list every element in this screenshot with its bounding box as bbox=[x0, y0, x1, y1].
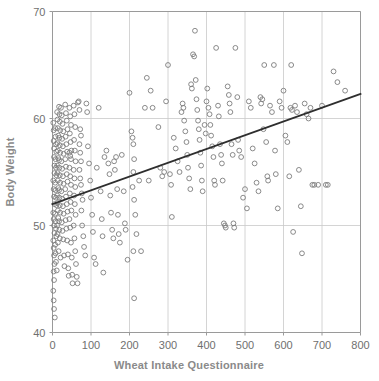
data-point bbox=[193, 28, 198, 33]
data-point bbox=[92, 255, 97, 260]
data-point bbox=[148, 88, 153, 93]
data-point bbox=[156, 125, 161, 130]
data-point bbox=[93, 262, 98, 267]
data-point bbox=[116, 232, 121, 237]
data-point bbox=[63, 187, 68, 192]
data-point bbox=[51, 288, 56, 293]
data-point bbox=[298, 204, 303, 209]
data-point bbox=[84, 101, 89, 106]
data-point bbox=[81, 234, 86, 239]
data-point bbox=[107, 172, 112, 177]
data-point bbox=[188, 187, 193, 192]
data-point bbox=[51, 269, 56, 274]
data-point bbox=[71, 167, 76, 172]
plot-frame bbox=[50, 12, 361, 336]
data-point bbox=[273, 148, 278, 153]
x-tick-label: 0 bbox=[49, 339, 55, 351]
data-point bbox=[196, 127, 201, 132]
data-point bbox=[71, 103, 76, 108]
data-point bbox=[132, 197, 137, 202]
data-point bbox=[133, 212, 138, 217]
data-point bbox=[131, 249, 136, 254]
data-point bbox=[271, 63, 276, 68]
data-point bbox=[78, 127, 83, 132]
data-points bbox=[51, 28, 348, 320]
data-point bbox=[79, 159, 84, 164]
x-axis-title: Wheat Intake Questionnaire bbox=[114, 359, 264, 371]
y-axis-tick-labels: 40506070 bbox=[33, 6, 45, 339]
data-point bbox=[177, 170, 182, 175]
data-point bbox=[51, 120, 56, 125]
data-point bbox=[67, 131, 72, 136]
data-point bbox=[207, 112, 212, 117]
data-point bbox=[88, 178, 93, 183]
data-point bbox=[134, 232, 139, 237]
data-point bbox=[73, 159, 78, 164]
data-point bbox=[187, 176, 192, 181]
data-point bbox=[144, 75, 149, 80]
data-point bbox=[56, 216, 61, 221]
gridlines bbox=[53, 12, 361, 333]
data-point bbox=[131, 142, 136, 147]
data-point bbox=[122, 221, 127, 226]
data-point bbox=[85, 110, 90, 115]
data-point bbox=[69, 157, 74, 162]
data-point bbox=[116, 212, 121, 217]
x-tick-label: 300 bbox=[159, 339, 177, 351]
data-point bbox=[108, 193, 113, 198]
data-point bbox=[70, 281, 75, 286]
data-point bbox=[228, 110, 233, 115]
data-point bbox=[143, 105, 148, 110]
data-point bbox=[69, 255, 74, 260]
data-point bbox=[100, 234, 105, 239]
data-point bbox=[254, 180, 259, 185]
data-point bbox=[96, 105, 101, 110]
data-point bbox=[183, 129, 188, 134]
data-point bbox=[104, 148, 109, 153]
y-tick-label: 50 bbox=[33, 220, 45, 232]
data-point bbox=[220, 161, 225, 166]
data-point bbox=[225, 84, 230, 89]
data-point bbox=[285, 140, 290, 145]
data-point bbox=[64, 118, 69, 123]
data-point bbox=[211, 155, 216, 160]
data-point bbox=[77, 108, 82, 113]
data-point bbox=[114, 155, 119, 160]
data-point bbox=[150, 105, 155, 110]
data-point bbox=[102, 155, 107, 160]
data-point bbox=[252, 161, 257, 166]
data-point bbox=[270, 110, 275, 115]
data-point bbox=[137, 178, 142, 183]
data-point bbox=[219, 152, 224, 157]
data-point bbox=[229, 142, 234, 147]
data-point bbox=[78, 150, 83, 155]
x-tick-label: 400 bbox=[197, 339, 215, 351]
data-point bbox=[184, 140, 189, 145]
data-point bbox=[90, 212, 95, 217]
data-point bbox=[72, 112, 77, 117]
data-point bbox=[237, 148, 242, 153]
data-point bbox=[248, 105, 253, 110]
data-point bbox=[195, 108, 200, 113]
data-point bbox=[80, 197, 85, 202]
data-point bbox=[199, 163, 204, 168]
data-point bbox=[73, 212, 78, 217]
data-point bbox=[256, 189, 261, 194]
data-point bbox=[101, 270, 106, 275]
scatter-chart: 0100200300400500600700800 40506070 Wheat… bbox=[0, 0, 379, 381]
data-point bbox=[146, 178, 151, 183]
data-point bbox=[216, 103, 221, 108]
data-point bbox=[293, 103, 298, 108]
data-point bbox=[73, 249, 78, 254]
data-point bbox=[246, 99, 251, 104]
x-tick-label: 600 bbox=[274, 339, 292, 351]
data-point bbox=[72, 202, 77, 207]
data-point bbox=[98, 189, 103, 194]
data-point bbox=[277, 99, 282, 104]
data-point bbox=[74, 274, 79, 279]
x-tick-label: 200 bbox=[120, 339, 138, 351]
data-point bbox=[77, 142, 82, 147]
data-point bbox=[297, 167, 302, 172]
data-point bbox=[300, 251, 305, 256]
data-point bbox=[64, 111, 69, 116]
